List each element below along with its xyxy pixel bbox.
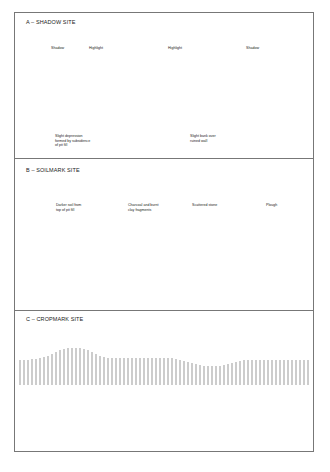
shadow-right-label: Shadow — [246, 46, 259, 51]
panel-divider — [14, 158, 314, 159]
scattered-stone-label: Scattered stone — [192, 203, 217, 208]
highlight-left-label: Highlight — [89, 46, 103, 51]
charcoal-label: Charcoal and burnt clay fragments — [128, 203, 159, 212]
darker-soil-label: Darker soil from top of pit fill — [56, 203, 81, 212]
panel-b-title: B – SOILMARK SITE — [26, 167, 80, 173]
figure-frame — [14, 12, 314, 452]
panel-c-title: C – CROPMARK SITE — [26, 316, 83, 322]
panel-divider — [14, 310, 314, 311]
highlight-right-label: Highlight — [168, 46, 182, 51]
depression-label: Slight depression formed by subsidence o… — [52, 132, 93, 150]
bank-label: Slight bank over ruined wall — [187, 132, 219, 145]
plough-label: Plough — [266, 203, 277, 208]
shadow-left-label: Shadow — [51, 46, 64, 51]
panel-a-title: A – SHADOW SITE — [26, 19, 75, 25]
